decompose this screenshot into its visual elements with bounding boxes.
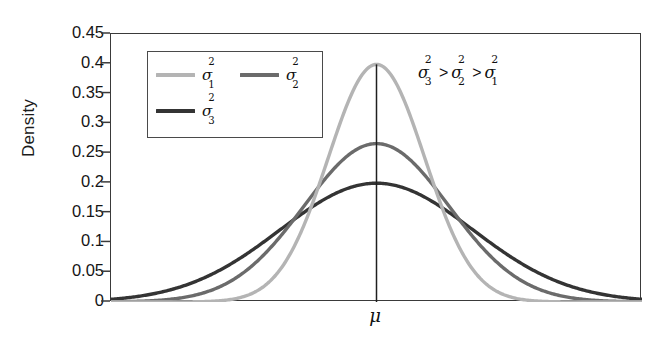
legend-entry[interactable]: σ23 (156, 102, 221, 120)
y-axis-label: Density (19, 63, 39, 193)
legend-sigma-symbol: σ23 (202, 102, 221, 120)
legend-entry[interactable]: σ21 (156, 66, 221, 84)
sigma-exponent: 2 (208, 56, 214, 67)
legend-box: σ21σ22σ23 (147, 51, 323, 138)
y-tick-label: 0.25 (48, 143, 104, 160)
legend-label: σ21 (202, 66, 221, 84)
sigma-exponent: 2 (292, 56, 298, 67)
sigma-index: 3 (425, 75, 432, 88)
greater-than-sign: > (438, 64, 451, 81)
y-tick-label: 0.35 (48, 84, 104, 101)
y-tick-label: 0 (48, 292, 104, 309)
legend-line-swatch (156, 109, 195, 114)
annotation-sigma-symbol: σ21 (485, 63, 505, 82)
sigma-index: 3 (208, 115, 214, 126)
annotation-sigma-symbol: σ22 (451, 63, 471, 82)
y-tick-label: 0.2 (48, 173, 104, 190)
sigma-exponent: 2 (425, 53, 432, 66)
greater-than-sign: > (471, 64, 484, 81)
legend-sigma-symbol: σ21 (202, 66, 221, 84)
legend-line-swatch (156, 73, 195, 78)
legend-label: σ22 (286, 66, 305, 84)
y-tick-label: 0.3 (48, 113, 104, 130)
sigma-index: 1 (491, 75, 498, 88)
y-tick-label: 0.45 (48, 24, 104, 41)
annotation-sigma-symbol: σ23 (418, 63, 438, 82)
density-chart-figure: Density 0.450.40.350.30.250.20.150.10.05… (0, 0, 665, 344)
y-tick-label: 0.1 (48, 232, 104, 249)
mu-tick-mark (371, 292, 381, 302)
mu-axis-label: μ (369, 305, 381, 326)
y-axis-ticks (97, 0, 111, 344)
y-axis-tick-labels: 0.450.40.350.30.250.20.150.10.050 (44, 0, 104, 344)
sigma-index: 2 (458, 75, 465, 88)
sigma-exponent: 2 (491, 53, 498, 66)
variance-order-annotation: σ23>σ22>σ21 (418, 63, 504, 82)
sigma-index: 2 (292, 79, 298, 90)
sigma-exponent: 2 (458, 53, 465, 66)
y-tick-label: 0.05 (48, 262, 104, 279)
sigma-exponent: 2 (208, 92, 214, 103)
legend-sigma-symbol: σ22 (286, 66, 305, 84)
y-tick-label: 0.15 (48, 203, 104, 220)
legend-label: σ23 (202, 102, 221, 120)
legend-entry[interactable]: σ22 (240, 66, 305, 84)
legend-line-swatch (240, 73, 279, 78)
sigma-index: 1 (208, 79, 214, 90)
y-tick-label: 0.4 (48, 54, 104, 71)
